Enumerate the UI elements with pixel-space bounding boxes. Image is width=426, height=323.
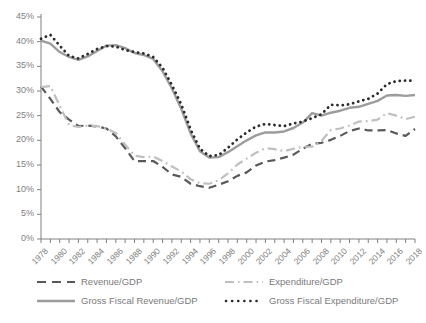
legend-item-revenue-gdp: Revenue/GDP — [36, 276, 142, 287]
y-tick-label: 5% — [0, 209, 34, 218]
y-tick-label: 10% — [0, 185, 34, 194]
y-tick-label: 30% — [0, 86, 34, 95]
legend-label: Expenditure/GDP — [269, 276, 343, 287]
y-tick-label: 15% — [0, 160, 34, 169]
y-tick-label: 20% — [0, 135, 34, 144]
dotted-black-key-icon — [224, 296, 264, 306]
chart-legend: Revenue/GDP Expenditure/GDP Gross Fiscal… — [28, 276, 426, 320]
y-tick-label: 0% — [0, 234, 34, 243]
legend-label: Revenue/GDP — [81, 276, 142, 287]
y-tick-label: 25% — [0, 111, 34, 120]
legend-label: Gross Fiscal Expenditure/GDP — [269, 295, 398, 306]
y-tick-label: 45% — [0, 12, 34, 21]
legend-item-gross-fiscal-expenditure-gdp: Gross Fiscal Expenditure/GDP — [224, 295, 398, 306]
dashdot-light-key-icon — [224, 277, 264, 287]
series-line — [41, 35, 415, 156]
series-line — [41, 41, 415, 158]
legend-label: Gross Fiscal Revenue/GDP — [81, 295, 198, 306]
y-tick-label: 35% — [0, 61, 34, 70]
dashed-dark-key-icon — [36, 277, 76, 287]
legend-item-expenditure-gdp: Expenditure/GDP — [224, 276, 343, 287]
legend-item-gross-fiscal-revenue-gdp: Gross Fiscal Revenue/GDP — [36, 295, 198, 306]
fiscal-ratio-line-chart: 0%5%10%15%20%25%30%35%40%45% 19781980198… — [0, 0, 426, 323]
y-tick-label: 40% — [0, 37, 34, 46]
solid-gray-key-icon — [36, 296, 76, 306]
